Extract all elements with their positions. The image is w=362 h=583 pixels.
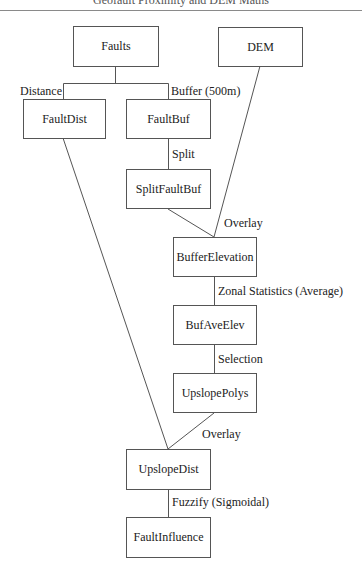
- node-label: SplitFaultBuf: [136, 182, 201, 197]
- edge-splitfaultbuf-bufferelevation: [168, 209, 214, 237]
- node-label: Faults: [101, 39, 130, 54]
- edge-label-buffer: Buffer (500m): [171, 84, 240, 98]
- edge-label-distance: Distance: [20, 84, 62, 98]
- node-label: FaultBuf: [147, 112, 190, 127]
- edge-label-selection: Selection: [218, 352, 263, 366]
- edge-label-zonal-statistics: Zonal Statistics (Average): [218, 284, 343, 298]
- node-label: UpslopePolys: [182, 386, 249, 401]
- node-splitfaultbuf: SplitFaultBuf: [126, 169, 211, 209]
- node-faultdist: FaultDist: [23, 99, 106, 139]
- node-label: BufAveElev: [185, 318, 244, 333]
- node-upslopedist: UpslopeDist: [126, 449, 211, 490]
- node-bufaveelev: BufAveElev: [173, 305, 257, 345]
- edge-label-split: Split: [172, 147, 195, 161]
- edge-label-overlay-2: Overlay: [202, 427, 241, 441]
- edge-label-overlay-1: Overlay: [224, 216, 263, 230]
- node-dem: DEM: [218, 27, 303, 67]
- node-label: FaultInfluence: [134, 530, 204, 545]
- node-bufferelevation: BufferElevation: [173, 237, 257, 277]
- node-label: BufferElevation: [176, 250, 253, 265]
- node-faultbuf: FaultBuf: [126, 99, 211, 139]
- node-faults: Faults: [73, 26, 159, 67]
- node-label: DEM: [247, 40, 274, 55]
- edge-label-fuzzify: Fuzzify (Sigmoidal): [172, 495, 269, 509]
- node-faultinfluence: FaultInfluence: [126, 517, 211, 558]
- node-label: UpslopeDist: [139, 462, 199, 477]
- node-label: FaultDist: [42, 112, 87, 127]
- node-upslopepolys: UpslopePolys: [173, 373, 257, 413]
